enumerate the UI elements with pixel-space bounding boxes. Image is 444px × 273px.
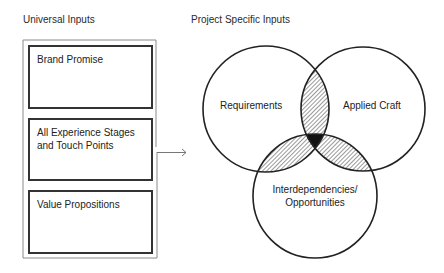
input-box-label: Brand Promise [37, 53, 149, 66]
arrow-icon [157, 149, 186, 156]
venn-label-applied-craft: Applied Craft [343, 99, 401, 112]
input-box-label: Value Propositions [37, 198, 149, 211]
input-box-label: All Experience Stages and Touch Points [37, 126, 149, 152]
venn-label-line-1: Interdependencies/ [265, 183, 365, 196]
input-box-experience-stages: All Experience Stages and Touch Points [28, 118, 153, 181]
venn-label-line-2: Opportunities [265, 196, 365, 209]
venn-label-requirements: Requirements [220, 99, 282, 112]
venn-label-interdependencies: Interdependencies/ Opportunities [265, 183, 365, 209]
input-box-value-propositions: Value Propositions [28, 190, 153, 254]
input-box-brand-promise: Brand Promise [28, 45, 153, 109]
